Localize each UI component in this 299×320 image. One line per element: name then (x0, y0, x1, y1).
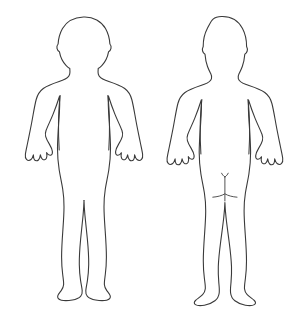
body-outline-diagram: Child Body Outline Diagram Two blank out… (0, 0, 299, 320)
body-diagram-canvas: Child Body Outline Diagram Two blank out… (0, 0, 299, 320)
